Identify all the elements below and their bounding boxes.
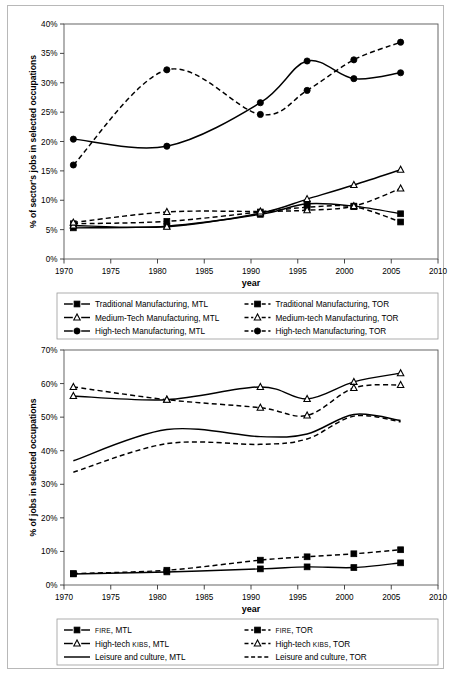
y-tick-label: 20% — [41, 138, 57, 147]
y-tick-label: 25% — [41, 108, 57, 117]
y-axis-title: % of sector's jobs in selected occupatio… — [28, 55, 38, 228]
x-tick-label: 2005 — [382, 267, 401, 276]
legend-item[interactable]: High-tech Manufacturing, TOR — [245, 327, 387, 336]
legend: Traditional Manufacturing, MTLTraditiona… — [57, 293, 438, 339]
svg-text:FIRE, MTL: FIRE, MTL — [95, 626, 132, 635]
y-tick-label: 15% — [41, 167, 57, 176]
legend: FIRE, MTLFIRE, TORHigh-tech KIBS, MTLHig… — [57, 619, 438, 665]
series-line — [73, 170, 400, 228]
legend-item[interactable]: High-tech Manufacturing, MTL — [64, 327, 206, 336]
legend-item[interactable]: Traditional Manufacturing, TOR — [245, 300, 390, 309]
axes: 0%5%10%15%20%25%30%35%40%197019751980198… — [28, 20, 448, 288]
svg-text:High-tech KIBS, TOR: High-tech KIBS, TOR — [276, 640, 351, 649]
x-tick-label: 2000 — [335, 267, 354, 276]
svg-text:Traditional Manufacturing, MTL: Traditional Manufacturing, MTL — [95, 300, 208, 309]
series-line — [73, 416, 400, 473]
y-tick-label: 20% — [41, 514, 57, 523]
x-tick-label: 1980 — [148, 593, 167, 602]
series-5 — [70, 58, 403, 149]
manufacturing-chart-svg: 0%5%10%15%20%25%30%35%40%197019751980198… — [8, 6, 453, 342]
legend-item[interactable]: FIRE, TOR — [245, 626, 313, 635]
plot-frame — [64, 350, 438, 585]
plot-frame — [64, 24, 438, 259]
y-tick-label: 70% — [41, 346, 57, 355]
y-tick-label: 10% — [41, 196, 57, 205]
svg-text:Leisure and culture, TOR: Leisure and culture, TOR — [276, 653, 367, 662]
legend-item[interactable]: Traditional Manufacturing, MTL — [64, 300, 208, 309]
x-tick-label: 1990 — [242, 267, 261, 276]
series-6 — [70, 39, 403, 168]
y-axis-title: % of jobs in selected occupations — [28, 398, 38, 536]
series-line — [73, 414, 400, 461]
y-tick-label: 10% — [41, 547, 57, 556]
series-4 — [70, 185, 404, 225]
chart-panel-services: 0%10%20%30%40%50%60%70%19701975198019851… — [8, 336, 445, 666]
y-tick-label: 35% — [41, 49, 57, 58]
x-tick-label: 1975 — [102, 267, 121, 276]
svg-text:Medium-Tech Manufacturing, MTL: Medium-Tech Manufacturing, MTL — [95, 314, 220, 323]
series-4 — [70, 381, 404, 418]
x-axis-title: year — [242, 278, 261, 288]
x-tick-label: 1975 — [102, 593, 121, 602]
y-tick-label: 30% — [41, 480, 57, 489]
series-1 — [70, 560, 403, 577]
series-line — [73, 373, 400, 400]
services-chart-svg: 0%10%20%30%40%50%60%70%19701975198019851… — [8, 336, 453, 672]
x-tick-label: 1995 — [289, 267, 308, 276]
x-tick-label: 1995 — [289, 593, 308, 602]
legend-item[interactable]: Leisure and culture, TOR — [245, 653, 367, 662]
svg-text:Medium-tech Manufacturing, TOR: Medium-tech Manufacturing, TOR — [276, 314, 399, 323]
svg-text:Traditional Manufacturing, TOR: Traditional Manufacturing, TOR — [276, 300, 390, 309]
x-tick-label: 1980 — [148, 267, 167, 276]
chart-panel-manufacturing: 0%5%10%15%20%25%30%35%40%197019751980198… — [8, 6, 445, 336]
svg-text:High-tech KIBS, MTL: High-tech KIBS, MTL — [95, 640, 170, 649]
x-tick-label: 2005 — [382, 593, 401, 602]
svg-text:High-tech Manufacturing, TOR: High-tech Manufacturing, TOR — [276, 327, 387, 336]
legend-item[interactable]: Medium-tech Manufacturing, TOR — [245, 314, 399, 323]
x-axis-title: year — [242, 604, 261, 614]
y-tick-label: 5% — [46, 226, 58, 235]
legend-item[interactable]: High-tech KIBS, MTL — [64, 640, 170, 649]
x-tick-label: 2000 — [335, 593, 354, 602]
series-2 — [70, 547, 403, 577]
legend-item[interactable]: Medium-Tech Manufacturing, MTL — [64, 314, 220, 323]
svg-text:FIRE, TOR: FIRE, TOR — [276, 626, 313, 635]
y-tick-label: 30% — [41, 79, 57, 88]
y-tick-label: 40% — [41, 20, 57, 29]
figure-container: 0%5%10%15%20%25%30%35%40%197019751980198… — [0, 0, 453, 675]
x-tick-label: 1990 — [242, 593, 261, 602]
legend-item[interactable]: Leisure and culture, MTL — [64, 653, 186, 662]
x-tick-label: 1985 — [195, 267, 214, 276]
series-5 — [73, 414, 400, 461]
legend-item[interactable]: High-tech KIBS, TOR — [245, 640, 351, 649]
y-tick-label: 40% — [41, 447, 57, 456]
legend-item[interactable]: FIRE, MTL — [64, 626, 132, 635]
x-tick-label: 1970 — [55, 593, 74, 602]
svg-text:Leisure and culture, MTL: Leisure and culture, MTL — [95, 653, 186, 662]
y-tick-label: 60% — [41, 380, 57, 389]
x-tick-label: 1985 — [195, 593, 214, 602]
x-tick-label: 2010 — [429, 593, 448, 602]
x-tick-label: 2010 — [429, 267, 448, 276]
x-tick-label: 1970 — [55, 267, 74, 276]
series-group — [70, 39, 404, 231]
y-tick-label: 50% — [41, 413, 57, 422]
series-3 — [70, 166, 404, 229]
svg-text:High-tech Manufacturing, MTL: High-tech Manufacturing, MTL — [95, 327, 206, 336]
y-tick-label: 0% — [46, 255, 58, 264]
y-tick-label: 0% — [46, 581, 58, 590]
series-group — [70, 370, 404, 577]
series-6 — [73, 416, 400, 473]
